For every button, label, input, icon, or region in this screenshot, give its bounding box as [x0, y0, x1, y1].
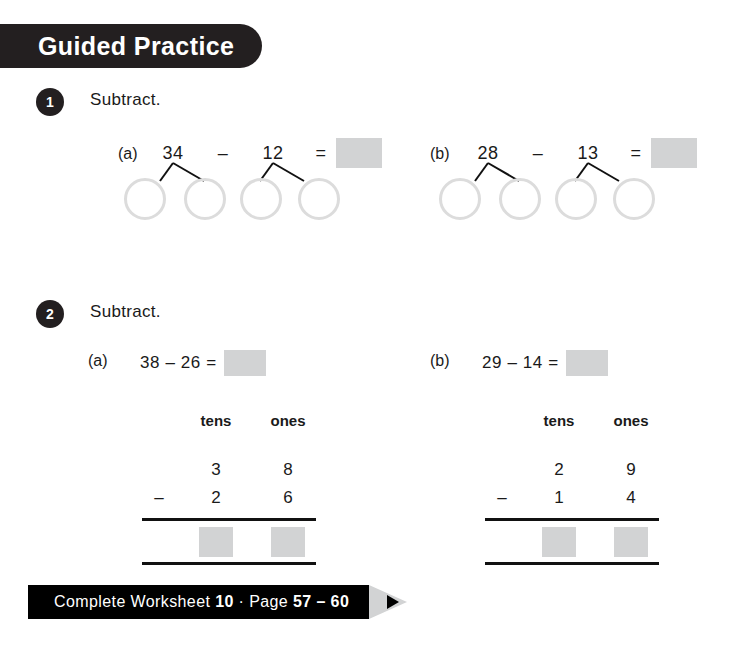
- question-1b-circle-2[interactable]: [499, 178, 541, 220]
- footer-page-range: 57 – 60: [293, 593, 349, 610]
- question-1a-subtrahend: 12: [240, 143, 306, 164]
- question-2a-row1-ones: 8: [260, 460, 316, 480]
- question-2a-row1-tens: 3: [188, 460, 244, 480]
- footer-bar: Complete Worksheet 10 · Page 57 – 60: [28, 585, 369, 619]
- question-1a-circle-3[interactable]: [240, 178, 282, 220]
- question-2-instruction: Subtract.: [90, 302, 161, 322]
- question-1a-minuend: 34: [140, 143, 206, 164]
- question-1b-expression: 28 – 13 =: [455, 140, 697, 166]
- question-1a-circle-1[interactable]: [124, 178, 166, 220]
- question-2a-label: (a): [88, 352, 108, 370]
- footer-arrow-icon: [369, 585, 407, 619]
- question-1b-label: (b): [430, 145, 450, 163]
- question-1b-subtrahend: 13: [555, 143, 621, 164]
- question-2b-result-tens-box[interactable]: [542, 527, 576, 557]
- question-1a-expression: 34 – 12 =: [140, 140, 382, 166]
- question-2a-expression: 38 – 26 =: [140, 353, 217, 373]
- question-2a-result-tens-box[interactable]: [199, 527, 233, 557]
- question-1a-label: (a): [118, 145, 138, 163]
- footer-arrow-inner: [387, 595, 399, 609]
- question-2a-minus-sign: –: [142, 488, 176, 508]
- question-2b-row2-ones: 4: [603, 488, 659, 508]
- question-2b-row2-tens: 1: [531, 488, 587, 508]
- question-2b-rule-bottom: [485, 562, 659, 565]
- question-2a-header-ones: ones: [260, 412, 316, 429]
- question-2a-answer-box[interactable]: [224, 350, 266, 376]
- question-2b-minus-sign: –: [485, 488, 519, 508]
- question-2a-row2-ones: 6: [260, 488, 316, 508]
- question-2a-expression-row: 38 – 26 =: [140, 350, 266, 376]
- question-1a-answer-box[interactable]: [336, 138, 382, 168]
- footer-worksheet-number: 10: [215, 593, 234, 610]
- question-1b-answer-box[interactable]: [651, 138, 697, 168]
- question-2b-label: (b): [430, 352, 450, 370]
- footer-separator: · Page: [234, 593, 293, 610]
- question-1-number-badge: 1: [36, 88, 64, 116]
- question-2-number-badge: 2: [36, 300, 64, 328]
- question-2a-header-tens: tens: [188, 412, 244, 429]
- footer-prefix: Complete Worksheet: [54, 593, 215, 610]
- question-2a-result-ones-box[interactable]: [271, 527, 305, 557]
- page-title: Guided Practice: [38, 32, 234, 61]
- footer-label: Complete Worksheet 10 · Page 57 – 60: [54, 593, 349, 611]
- question-2b-answer-box[interactable]: [566, 350, 608, 376]
- question-1b-circle-1[interactable]: [439, 178, 481, 220]
- question-1a-circle-2[interactable]: [184, 178, 226, 220]
- question-1a-circle-4[interactable]: [298, 178, 340, 220]
- question-2b-row1-ones: 9: [603, 460, 659, 480]
- question-2b-expression-row: 29 – 14 =: [482, 350, 608, 376]
- guided-practice-banner: Guided Practice: [0, 24, 262, 68]
- question-2a-rule-top: [142, 518, 316, 521]
- question-1a-equals: =: [306, 143, 336, 164]
- question-2a-rule-bottom: [142, 562, 316, 565]
- question-2b-row1-tens: 2: [531, 460, 587, 480]
- question-1-instruction: Subtract.: [90, 90, 161, 110]
- question-2b-header-tens: tens: [531, 412, 587, 429]
- question-1a-operator: –: [206, 143, 240, 164]
- question-1b-operator: –: [521, 143, 555, 164]
- question-2b-expression: 29 – 14 =: [482, 353, 559, 373]
- question-2b-header-ones: ones: [603, 412, 659, 429]
- question-1b-circle-4[interactable]: [613, 178, 655, 220]
- question-1b-circle-3[interactable]: [555, 178, 597, 220]
- worksheet-footer[interactable]: Complete Worksheet 10 · Page 57 – 60: [28, 585, 407, 619]
- question-2b-result-ones-box[interactable]: [614, 527, 648, 557]
- question-2a-row2-tens: 2: [188, 488, 244, 508]
- question-2b-rule-top: [485, 518, 659, 521]
- question-1b-minuend: 28: [455, 143, 521, 164]
- question-1b-equals: =: [621, 143, 651, 164]
